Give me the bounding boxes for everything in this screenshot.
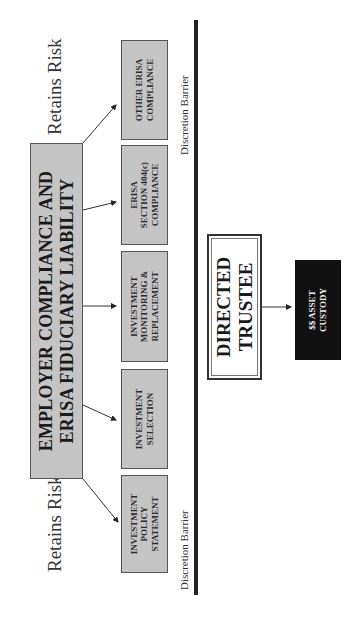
sub-box-text: POLICY xyxy=(139,507,150,542)
trustee-line-2: TRUSTEE xyxy=(235,263,257,352)
investment-policy-statement-box: INVESTMENT POLICY STATEMENT xyxy=(121,475,168,573)
sub-box-text: COMPLIANCE xyxy=(145,59,156,122)
sub-box-text: SELECTION xyxy=(145,393,156,446)
sub-box-text: SECTION 404(c) xyxy=(139,162,150,228)
arrow-to-other xyxy=(83,105,116,143)
sub-box-text: REPLACEMENT xyxy=(150,272,161,342)
sub-box-text: ERISA xyxy=(129,181,140,209)
sub-box-text: STATEMENT xyxy=(150,496,161,551)
asset-custody-box: $$ ASSET CUSTODY xyxy=(295,260,341,360)
directed-trustee-box: DIRECTED TRUSTEE xyxy=(207,234,262,380)
sub-box-text: COMPLIANCE xyxy=(150,164,161,227)
sub-box-text: OTHER ERISA xyxy=(134,59,145,121)
trustee-line-1: DIRECTED xyxy=(213,257,235,357)
other-erisa-compliance-box: OTHER ERISA COMPLIANCE xyxy=(121,40,168,140)
discretion-barrier-label-right: Discretion Barrier xyxy=(178,75,190,155)
investment-monitoring-box: INVESTMENT MONITORING & REPLACEMENT xyxy=(121,251,168,362)
arrow-to-policy xyxy=(83,479,118,522)
diagram-canvas: Retains Risk Retains Risk EMPLOYER COMPL… xyxy=(0,0,364,640)
sub-box-text: INVESTMENT xyxy=(129,276,140,337)
arrow-to-selection xyxy=(83,405,116,420)
investment-selection-box: INVESTMENT SELECTION xyxy=(121,369,168,469)
discretion-barrier-line xyxy=(194,20,198,595)
arrow-to-404c xyxy=(83,202,116,210)
custody-line-1: $$ ASSET xyxy=(307,290,318,329)
sub-box-text: MONITORING & xyxy=(139,271,150,343)
custody-line-2: CUSTODY xyxy=(318,288,329,332)
sub-box-text: INVESTMENT xyxy=(134,389,145,450)
erisa-404c-box: ERISA SECTION 404(c) COMPLIANCE xyxy=(121,145,168,245)
discretion-barrier-label-left: Discretion Barrier xyxy=(178,510,190,590)
sub-box-text: INVESTMENT xyxy=(129,494,140,555)
